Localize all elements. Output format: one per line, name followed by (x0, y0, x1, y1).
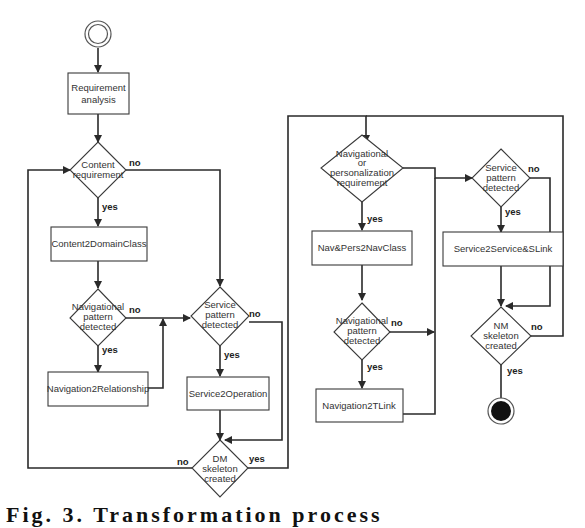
activity-service2operation: Service2Operation (187, 377, 269, 410)
decision-label: created (485, 340, 517, 351)
branch-no: no (531, 321, 543, 332)
branch-yes: yes (102, 201, 118, 212)
final-node (488, 398, 514, 424)
start-node (85, 21, 111, 47)
branch-no: no (177, 456, 189, 467)
activity-label: Service2Operation (189, 388, 268, 399)
activity-label: Requirement (71, 82, 126, 93)
branch-yes: yes (505, 206, 521, 217)
activity-label: analysis (81, 94, 116, 105)
branch-no: no (249, 308, 261, 319)
decision-service-pattern-right: Service pattern detected no yes (472, 149, 540, 217)
activity-label: Navigation2Relationship (47, 383, 149, 394)
activity-navigation2tlink: Navigation2TLink (316, 389, 403, 422)
activity-service2service-slink: Service2Service&SLink (443, 232, 563, 266)
activity-label: Nav&Pers2NavClass (318, 242, 407, 253)
branch-yes: yes (367, 361, 383, 372)
branch-no: no (391, 317, 403, 328)
decision-service-pattern-left: Service pattern detected no yes (191, 287, 261, 360)
decision-label: detected (202, 319, 238, 330)
branch-yes: yes (249, 453, 265, 464)
decision-nav-pattern-left: Navigational pattern no detected yes (70, 289, 141, 355)
activity-content2domainclass: Content2DomainClass (51, 227, 147, 261)
activity-navpers2navclass: Nav&Pers2NavClass (312, 231, 412, 265)
activity-label: Service2Service&SLink (454, 243, 553, 254)
decision-label: detected (344, 335, 380, 346)
figure-caption: Fig. 3. Transformation process (6, 502, 383, 528)
branch-yes: yes (367, 213, 383, 224)
decision-label: detected (483, 182, 519, 193)
decision-nm-skeleton: NM skeleton created no yes (471, 307, 543, 376)
decision-nav-pattern-right: Navigational pattern detected no yes (334, 303, 403, 372)
decision-label: requirement (337, 177, 388, 188)
activity-navigation2relationship: Navigation2Relationship (47, 372, 149, 406)
decision-label: detected (80, 321, 116, 332)
decision-label: created (204, 473, 236, 484)
activity-label: Content2DomainClass (51, 238, 146, 249)
branch-no: no (528, 163, 540, 174)
decision-content-requirement: Content requirement no yes (70, 142, 141, 212)
activity-requirement-analysis: Requirement analysis (68, 73, 129, 114)
branch-yes: yes (102, 344, 118, 355)
decision-label: requirement (73, 169, 124, 180)
branch-yes: yes (224, 349, 240, 360)
branch-yes: yes (507, 365, 523, 376)
branch-no: no (129, 304, 141, 315)
branch-no: no (129, 157, 141, 168)
activity-label: Navigation2TLink (322, 400, 396, 411)
